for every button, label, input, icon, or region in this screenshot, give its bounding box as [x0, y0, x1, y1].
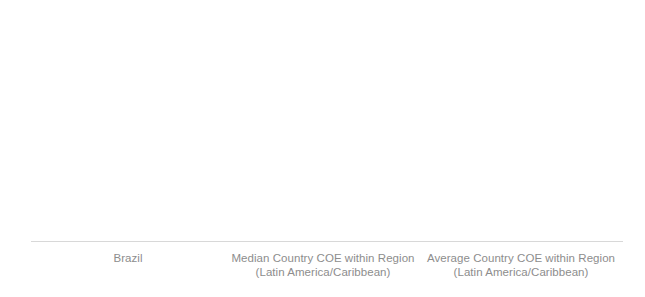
x-axis-baseline	[31, 241, 623, 242]
category-label-line1-1: Median Country COE within Region	[231, 252, 414, 264]
category-label-2: Average Country COE within Region (Latin…	[424, 252, 618, 279]
category-label-line1-2: Average Country COE within Region	[427, 252, 615, 264]
category-label-0: Brazil	[66, 252, 190, 266]
category-label-line2-1: (Latin America/Caribbean)	[228, 266, 418, 280]
category-label-line2-2: (Latin America/Caribbean)	[424, 266, 618, 280]
category-label-1: Median Country COE within Region (Latin …	[228, 252, 418, 279]
plot-area: 13.7% Brazil 17.2% Median Country COE wi…	[0, 0, 645, 297]
category-label-line1-0: Brazil	[113, 252, 142, 264]
bar-chart: 13.7% Brazil 17.2% Median Country COE wi…	[0, 0, 645, 297]
